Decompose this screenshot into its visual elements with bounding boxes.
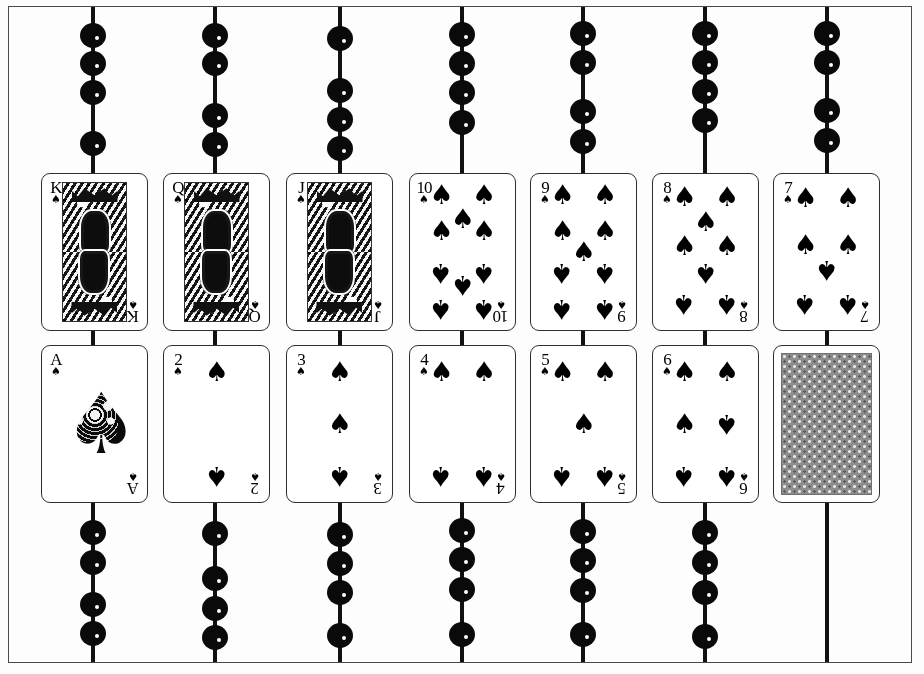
court-figure-half (63, 252, 126, 321)
spade-icon: ♠ (836, 185, 860, 211)
chain-bead (570, 578, 596, 603)
chain-bead (570, 519, 596, 544)
chain-bead (327, 551, 353, 576)
court-figure-half (185, 183, 248, 252)
spade-icon: ♠ (328, 359, 352, 385)
court-figure-illustration (307, 182, 372, 322)
playing-card-3-of-spades[interactable]: 3♠3♠♠♠♠ (286, 345, 393, 503)
chain-bead (449, 51, 475, 76)
chain-line-middle (460, 330, 464, 346)
spade-icon: ♠ (593, 296, 617, 322)
chain-bead (692, 580, 718, 605)
spade-icon: ♠ (793, 185, 817, 211)
chain-bead (570, 99, 596, 124)
chain-bead (692, 108, 718, 133)
chain-bead (692, 50, 718, 75)
spade-icon: ♠ (451, 272, 475, 298)
chain-bead (692, 21, 718, 46)
spade-icon: ♠ (715, 411, 739, 437)
playing-card-6-of-spades[interactable]: 6♠6♠♠♠♠♠♠♠ (652, 345, 759, 503)
card-back-pattern (781, 353, 872, 495)
card-corner-index: 3♠ (291, 351, 311, 376)
spade-icon: ♠ (715, 359, 739, 385)
card-rank-label: A (123, 481, 143, 497)
spade-icon: ♠ (550, 296, 574, 322)
ace-of-spades-ornament: ♠ (64, 382, 126, 466)
playing-card-j-of-spades[interactable]: J♠J♠ (286, 173, 393, 331)
spade-icon: ♠ (550, 182, 574, 208)
chain-bead (202, 566, 228, 591)
chain-bead (570, 21, 596, 46)
court-figure-illustration (62, 182, 127, 322)
playing-card-10-of-spades[interactable]: 10♠10♠♠♠♠♠♠♠♠♠♠♠ (409, 173, 516, 331)
playing-card-q-of-spades[interactable]: Q♠Q♠ (163, 173, 270, 331)
spade-icon: ♠ (472, 463, 496, 489)
crown-icon (317, 302, 363, 317)
spade-icon: ♠ (672, 233, 696, 259)
spade-icon: ♠ (472, 359, 496, 385)
chain-bead (202, 23, 228, 48)
pip-field: ♠♠♠♠♠♠♠♠♠ (553, 183, 614, 321)
pip-field: ♠♠♠♠ (432, 355, 493, 493)
spade-icon: ♠ (328, 411, 352, 437)
robe-shape (79, 249, 111, 295)
robe-shape (201, 249, 233, 295)
pip-field: ♠♠ (186, 355, 247, 493)
crown-icon (317, 187, 363, 202)
court-figure-illustration (184, 182, 249, 322)
spade-icon: ♠ (328, 463, 352, 489)
chain-line-middle (581, 330, 585, 346)
chain-bead (692, 550, 718, 575)
chain-bead (202, 103, 228, 128)
spade-icon: ♠ (672, 411, 696, 437)
spade-icon: ♠ (694, 209, 718, 235)
spade-icon: ♠ (672, 463, 696, 489)
spade-icon: ♠ (550, 463, 574, 489)
chain-bead (80, 550, 106, 575)
spade-icon: ♠ (429, 218, 453, 244)
chain-bead (814, 21, 840, 46)
chain-bead (202, 51, 228, 76)
card-corner-index: A♠ (123, 472, 143, 497)
spade-icon: ♠ (793, 291, 817, 317)
spade-icon: ♠ (715, 463, 739, 489)
chain-bead (570, 50, 596, 75)
chain-bead (80, 592, 106, 617)
chain-bead (80, 131, 106, 156)
card-layout-scene: K♠K♠Q♠Q♠J♠J♠10♠10♠♠♠♠♠♠♠♠♠♠♠9♠9♠♠♠♠♠♠♠♠♠… (0, 0, 924, 674)
playing-card-9-of-spades[interactable]: 9♠9♠♠♠♠♠♠♠♠♠♠ (530, 173, 637, 331)
chain-bead (327, 580, 353, 605)
spade-icon: ♠ (715, 233, 739, 259)
playing-card-8-of-spades[interactable]: 8♠8♠♠♠♠♠♠♠♠♠ (652, 173, 759, 331)
chain-bead (202, 521, 228, 546)
playing-card-a-of-spades[interactable]: A♠A♠♠ (41, 345, 148, 503)
chain-bead (327, 623, 353, 648)
spade-icon: ♠ (715, 184, 739, 210)
playing-card-k-of-spades[interactable]: K♠K♠ (41, 173, 148, 331)
spade-icon: ♠ (550, 260, 574, 286)
spade-icon: ♠ (593, 218, 617, 244)
spade-icon: ♠ (472, 260, 496, 286)
pip-field: ♠♠♠♠♠ (553, 355, 614, 493)
spade-icon: ♠ (245, 472, 265, 481)
card-rank-label: 2 (245, 481, 265, 497)
chain-bead (80, 621, 106, 646)
chain-bead (814, 50, 840, 75)
playing-card-5-of-spades[interactable]: 5♠5♠♠♠♠♠♠ (530, 345, 637, 503)
chain-bead (202, 596, 228, 621)
chain-bead (80, 23, 106, 48)
card-corner-index: 2♠ (168, 351, 188, 376)
crown-icon (194, 302, 240, 317)
chain-line-middle (338, 330, 342, 346)
chain-bead (327, 107, 353, 132)
court-figure-half (308, 183, 371, 252)
playing-card-2-of-spades[interactable]: 2♠2♠♠♠ (163, 345, 270, 503)
playing-card-7-of-spades[interactable]: 7♠7♠♠♠♠♠♠♠♠ (773, 173, 880, 331)
spade-icon: ♠ (672, 291, 696, 317)
card-corner-index: 3♠ (368, 472, 388, 497)
chain-bead (814, 98, 840, 123)
chain-bead (202, 132, 228, 157)
chain-line-bottom (825, 502, 829, 662)
playing-card-back[interactable] (773, 345, 880, 503)
playing-card-4-of-spades[interactable]: 4♠4♠♠♠♠♠ (409, 345, 516, 503)
